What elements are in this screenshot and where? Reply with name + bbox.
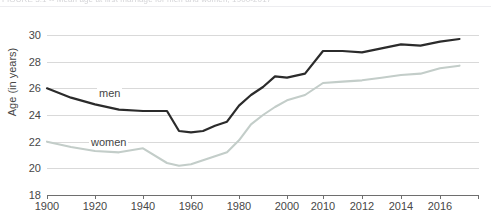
x-tick-label-2016: 2016 (415, 200, 465, 212)
figure-container: FIGURE 3.1 -- Mean age at first marriage… (0, 0, 491, 223)
plot-area: men women (47, 35, 479, 195)
y-tick-label-22: 22 (19, 137, 41, 148)
x-tick-2016 (440, 195, 441, 199)
y-axis-label: Age (in years) (6, 22, 18, 142)
x-tick-1940 (143, 195, 144, 199)
y-tick-label-30: 30 (19, 30, 41, 41)
x-tick-end (478, 195, 479, 199)
x-tick-label-1940: 1940 (118, 200, 168, 212)
x-tick-2000 (287, 195, 288, 199)
x-tick-1960 (191, 195, 192, 199)
caption-divider (0, 6, 491, 7)
line-men (47, 39, 460, 132)
y-tick-label-28: 28 (19, 57, 41, 68)
x-tick-1980 (239, 195, 240, 199)
figure-caption-strip: FIGURE 3.1 -- Mean age at first marriage… (0, 0, 491, 7)
y-tick-label-24: 24 (19, 110, 41, 121)
x-tick-label-1900: 1900 (22, 200, 72, 212)
x-tick-label-1980: 1980 (214, 200, 264, 212)
y-tick-label-26: 26 (19, 83, 41, 94)
x-tick-2014 (401, 195, 402, 199)
x-tick-1920 (95, 195, 96, 199)
y-tick-label-20: 20 (19, 163, 41, 174)
figure-caption: FIGURE 3.1 -- Mean age at first marriage… (2, 0, 271, 5)
x-tick-1900 (47, 195, 48, 199)
x-axis-line (47, 195, 479, 196)
line-women (47, 66, 460, 166)
series-label-men: men (97, 87, 122, 99)
x-tick-2012 (362, 195, 363, 199)
series-label-women: women (89, 136, 128, 148)
x-tick-2010 (323, 195, 324, 199)
x-tick-label-1920: 1920 (70, 200, 120, 212)
series-lines (47, 35, 479, 195)
x-tick-label-1960: 1960 (166, 200, 216, 212)
